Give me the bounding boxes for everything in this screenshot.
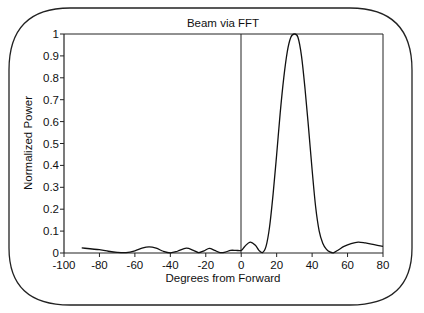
chart-frame xyxy=(9,8,205,158)
y-axis-label: Normalized Power xyxy=(22,96,34,190)
x-tick-label: 0 xyxy=(238,259,244,271)
y-tick-label: 0.6 xyxy=(43,116,59,128)
x-tick-label: -20 xyxy=(197,259,214,271)
y-tick-label: 1 xyxy=(53,28,59,40)
y-tick-label: 0.2 xyxy=(43,203,59,215)
x-axis-label: Degrees from Forward xyxy=(165,272,280,284)
x-tick-label: -60 xyxy=(127,259,144,271)
y-tick-label: 0.4 xyxy=(43,159,60,171)
x-tick-label: 80 xyxy=(377,259,390,271)
x-tick-label: 40 xyxy=(306,259,319,271)
x-tick-label: 60 xyxy=(341,259,354,271)
y-tick-label: 0.5 xyxy=(43,138,59,150)
beam-power-line xyxy=(82,34,383,253)
y-tick-label: 0.9 xyxy=(43,50,59,62)
x-tick-label: -80 xyxy=(91,259,108,271)
plot-area xyxy=(64,34,383,253)
y-axis-ticks: 00.10.20.30.40.50.60.70.80.91 xyxy=(43,28,64,259)
y-tick-label: 0.7 xyxy=(43,94,59,106)
chart-canvas: Beam via FFT 00.10.20.30.40.50.60.70.80.… xyxy=(0,0,424,313)
x-tick-label: -40 xyxy=(162,259,179,271)
y-tick-label: 0.8 xyxy=(43,72,59,84)
y-tick-label: 0 xyxy=(53,247,59,259)
chart-title: Beam via FFT xyxy=(187,17,259,29)
y-tick-label: 0.1 xyxy=(43,225,59,237)
x-tick-label: -100 xyxy=(52,259,75,271)
x-tick-label: 20 xyxy=(270,259,283,271)
x-axis-ticks: -100-80-60-40-20020406080 xyxy=(52,253,389,271)
y-tick-label: 0.3 xyxy=(43,181,59,193)
